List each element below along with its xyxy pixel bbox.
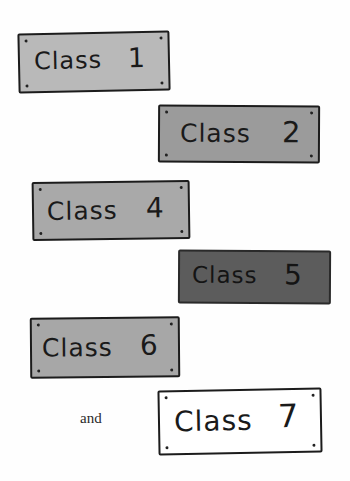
rivet-icon xyxy=(165,154,168,157)
rivet-icon xyxy=(39,188,42,191)
rivet-icon xyxy=(312,394,315,397)
class-1-sign: Class 1 xyxy=(17,30,170,93)
class-4-sign: Class 4 xyxy=(32,180,191,241)
sign-number: 1 xyxy=(128,42,146,73)
sign-label: Class xyxy=(180,119,251,148)
sign-label: Class xyxy=(42,333,113,363)
class-7-sign: Class 7 xyxy=(157,388,322,456)
class-5-sign: Class 5 xyxy=(178,250,331,305)
rivet-icon xyxy=(165,396,168,399)
rivet-icon xyxy=(37,370,40,373)
sign-label: Class xyxy=(47,196,118,226)
rivet-icon xyxy=(160,82,163,85)
sign-number: 4 xyxy=(146,191,164,224)
sign-label: Class xyxy=(192,262,258,288)
rivet-icon xyxy=(37,324,40,327)
sign-number: 2 xyxy=(282,115,301,149)
sign-label: Class xyxy=(174,404,253,438)
rivet-icon xyxy=(165,111,168,114)
rivet-icon xyxy=(25,84,28,87)
rivet-icon xyxy=(310,154,313,157)
rivet-icon xyxy=(159,37,162,40)
class-2-sign: Class 2 xyxy=(158,105,320,164)
rivet-icon xyxy=(180,230,183,233)
rivet-icon xyxy=(39,232,42,235)
sign-label: Class xyxy=(34,46,103,75)
class-6-sign: Class 6 xyxy=(30,316,181,378)
rivet-icon xyxy=(180,186,183,189)
rivet-icon xyxy=(170,368,173,371)
illustration-canvas: Class 1 Class 2 Class 4 Class 5 Class 6 … xyxy=(0,0,350,481)
rivet-icon xyxy=(165,446,168,449)
rivet-icon xyxy=(25,39,28,42)
sign-number: 6 xyxy=(140,329,158,362)
and-connector: and xyxy=(80,410,102,427)
rivet-icon xyxy=(312,444,315,447)
rivet-icon xyxy=(170,322,173,325)
sign-number: 7 xyxy=(278,397,299,435)
sign-number: 5 xyxy=(284,258,302,291)
rivet-icon xyxy=(310,111,313,114)
